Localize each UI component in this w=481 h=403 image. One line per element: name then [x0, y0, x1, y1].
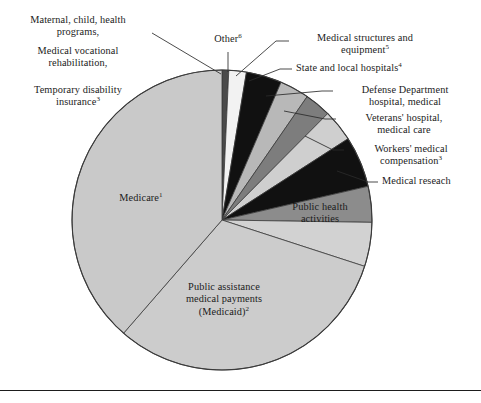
label-medicaid-sup: 2 — [246, 304, 250, 312]
label-public-health-line2: activities — [272, 213, 368, 225]
label-medical-structures-equipment: Medical structures and equipment5 — [292, 32, 438, 57]
label-workers-line2: compensation — [380, 155, 438, 166]
label-research-text: Medical reseach — [382, 175, 451, 186]
label-medicare-text: Medicare — [119, 192, 159, 203]
footer-divider — [0, 390, 481, 391]
label-vocational-line2: rehabilitation, — [8, 57, 148, 69]
label-temporary-disability-insurance: Temporary disability insurance3 — [4, 84, 152, 109]
leader-line-structures — [236, 41, 289, 76]
label-temp-disability-sup: 3 — [96, 95, 100, 103]
label-medicaid-line2: medical payments — [150, 293, 298, 305]
label-medical-research: Medical reseach — [382, 175, 481, 187]
pie-chart-figure: Maternal, child, health programs, Medica… — [0, 0, 481, 403]
label-state-local-text: State and local hospitals — [296, 62, 398, 73]
label-medicare: Medicare1 — [96, 192, 186, 204]
label-veterans-line1: Veterans' hospital, — [340, 112, 468, 124]
label-defense-department: Defense Department hospital, medical — [336, 84, 474, 109]
label-structures-sup: 5 — [385, 43, 389, 51]
label-temp-disability-line2-wrap: insurance3 — [4, 96, 152, 108]
label-other-sup: 6 — [238, 32, 242, 40]
label-workers-line1: Workers' medical — [348, 143, 474, 155]
label-defense-line1: Defense Department — [336, 84, 474, 96]
label-workers-sup: 3 — [438, 154, 442, 162]
label-workers-line2-wrap: compensation3 — [348, 155, 474, 167]
label-public-health-line1: Public health — [272, 201, 368, 213]
label-maternal-line1: Maternal, child, health — [8, 14, 148, 26]
label-temp-disability-line1: Temporary disability — [4, 84, 152, 96]
label-workers-medical-compensation: Workers' medical compensation3 — [348, 143, 474, 168]
label-vocational-line1: Medical vocational — [8, 45, 148, 57]
label-other: Other6 — [196, 33, 260, 45]
label-structures-line2: equipment — [341, 44, 385, 55]
label-medicaid-line1: Public assistance — [150, 281, 298, 293]
label-state-local-sup: 4 — [398, 61, 402, 69]
label-defense-line2: hospital, medical — [336, 96, 474, 108]
label-maternal-child-health: Maternal, child, health programs, — [8, 14, 148, 39]
label-medicaid-line3-wrap: (Medicaid)2 — [150, 306, 298, 318]
label-veterans-hospital: Veterans' hospital, medical care — [340, 112, 468, 137]
label-other-text: Other — [214, 33, 238, 44]
label-medicare-sup: 1 — [159, 191, 163, 199]
label-structures-line1: Medical structures and — [292, 32, 438, 44]
label-medicaid-line3: (Medicaid) — [199, 306, 246, 317]
label-state-local-hospitals: State and local hospitals4 — [296, 62, 476, 74]
label-veterans-line2: medical care — [340, 124, 468, 136]
label-public-health-activities: Public health activities — [272, 201, 368, 226]
label-maternal-line2: programs, — [8, 26, 148, 38]
label-medical-vocational-rehabilitation: Medical vocational rehabilitation, — [8, 45, 148, 70]
label-medicaid: Public assistance medical payments (Medi… — [150, 281, 298, 318]
label-structures-line2-wrap: equipment5 — [292, 44, 438, 56]
label-temp-disability-line2: insurance — [56, 96, 96, 107]
